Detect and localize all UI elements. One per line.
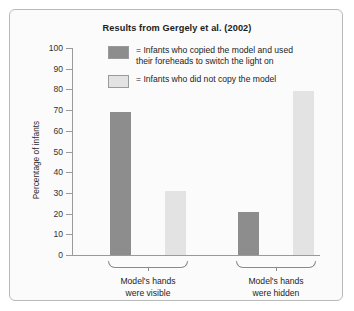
legend-item-copied: = Infants who copied the model and used …	[108, 45, 338, 67]
y-tick-50	[66, 152, 72, 153]
y-tick-10	[66, 234, 72, 235]
x-axis-line	[72, 255, 320, 256]
y-tick-label-70: 70	[53, 105, 63, 115]
y-tick-0	[66, 255, 72, 256]
y-axis-line	[72, 48, 73, 255]
group-brace-nub	[276, 267, 277, 271]
y-axis-label: Percentage of infants	[31, 121, 41, 199]
y-tick-label-10: 10	[53, 229, 63, 239]
y-tick-30	[66, 193, 72, 194]
legend-item-not-copied: = Infants who did not copy the model	[108, 74, 338, 88]
y-tick-label-90: 90	[53, 64, 63, 74]
y-tick-label-100: 100	[49, 43, 63, 53]
group-label-2: Model's hands were hidden	[226, 276, 326, 299]
group-brace-1	[108, 261, 188, 268]
legend-label-not-copied: = Infants who did not copy the model	[136, 74, 276, 85]
chart-title: Results from Gergely et al. (2002)	[10, 23, 344, 33]
legend-swatch-dark	[108, 46, 129, 59]
y-tick-40	[66, 172, 72, 173]
y-tick-label-80: 80	[53, 84, 63, 94]
y-tick-label-40: 40	[53, 167, 63, 177]
y-tick-20	[66, 214, 72, 215]
bar-copied-group-1	[110, 112, 131, 255]
legend-swatch-light	[108, 75, 129, 88]
chart-legend: = Infants who copied the model and used …	[108, 45, 338, 95]
y-tick-80	[66, 89, 72, 90]
y-tick-70	[66, 110, 72, 111]
y-tick-label-0: 0	[58, 250, 63, 260]
group-brace-nub	[148, 267, 149, 271]
y-tick-label-50: 50	[53, 147, 63, 157]
y-tick-100	[66, 48, 72, 49]
y-tick-label-30: 30	[53, 188, 63, 198]
y-tick-60	[66, 131, 72, 132]
bar-not-copied-group-1	[165, 191, 186, 255]
chart-figure: Results from Gergely et al. (2002) Perce…	[9, 9, 343, 301]
legend-label-copied: = Infants who copied the model and used …	[136, 45, 293, 67]
y-tick-label-20: 20	[53, 209, 63, 219]
group-brace-2	[236, 261, 316, 268]
y-tick-label-60: 60	[53, 126, 63, 136]
group-label-1: Model's hands were visible	[98, 276, 198, 299]
y-tick-90	[66, 69, 72, 70]
bar-copied-group-2	[238, 212, 259, 255]
bar-not-copied-group-2	[293, 91, 314, 255]
